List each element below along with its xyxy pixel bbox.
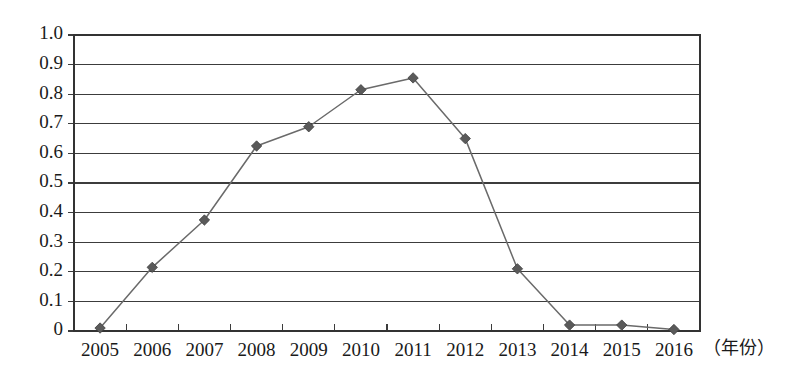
y-axis-tick-label: 0 (54, 318, 64, 339)
y-axis-tick-label: 0.3 (39, 230, 63, 251)
y-axis-tick-label: 0.1 (39, 289, 63, 310)
y-axis-tick-labels: 00.10.20.30.40.50.60.70.80.91.0 (39, 22, 63, 339)
x-axis-tick-label: 2012 (446, 339, 484, 360)
x-axis-tick-label: 2009 (290, 339, 328, 360)
y-axis-tick-label: 0.6 (39, 141, 63, 162)
x-axis-tick-label: 2010 (342, 339, 380, 360)
x-axis-tick-label: 2016 (655, 339, 693, 360)
y-axis-tick-label: 0.8 (39, 82, 63, 103)
x-axis-tick-label: 2011 (394, 339, 431, 360)
x-axis-tick-label: 2008 (238, 339, 276, 360)
y-axis-tick-label: 0.9 (39, 52, 63, 73)
chart-background (0, 0, 807, 382)
x-axis-tick-label: 2015 (603, 339, 641, 360)
chart-container: 00.10.20.30.40.50.60.70.80.91.0 20052006… (0, 0, 807, 382)
line-chart: 00.10.20.30.40.50.60.70.80.91.0 20052006… (0, 0, 807, 382)
x-axis-tick-label: 2014 (551, 339, 590, 360)
x-axis-caption: （年份） (703, 338, 775, 358)
y-axis-tick-label: 1.0 (39, 22, 63, 43)
y-axis-tick-label: 0.5 (39, 170, 63, 191)
y-axis-tick-label: 0.2 (39, 259, 63, 280)
y-axis-tick-label: 0.7 (39, 111, 63, 132)
x-axis-tick-label: 2013 (498, 339, 536, 360)
x-axis-tick-label: 2007 (185, 339, 223, 360)
x-axis-tick-label: 2006 (133, 339, 171, 360)
x-axis-tick-label: 2005 (81, 339, 119, 360)
y-axis-tick-label: 0.4 (39, 200, 63, 221)
